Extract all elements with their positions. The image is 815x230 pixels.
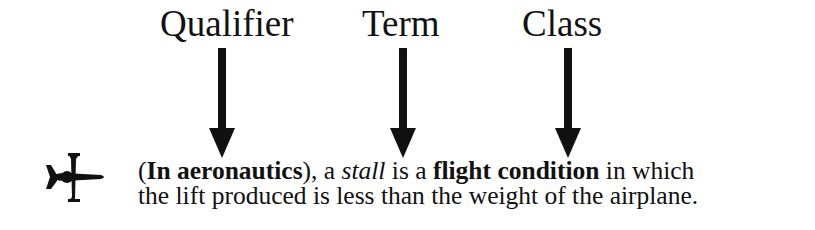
qualifier-arrow-icon: [206, 48, 238, 160]
term-label: Term: [362, 2, 440, 46]
qualifier-label: Qualifier: [160, 2, 294, 46]
class-arrow-icon: [552, 48, 584, 160]
airplane-icon: [45, 151, 109, 203]
definition-text: (In aeronautics), a stall is a flight co…: [138, 158, 698, 208]
definition-line-1: (In aeronautics), a stall is a flight co…: [138, 158, 698, 183]
class-label: Class: [522, 2, 602, 46]
definition-line-2: the lift produced is less than the weigh…: [138, 183, 698, 208]
term-arrow-icon: [387, 48, 419, 160]
